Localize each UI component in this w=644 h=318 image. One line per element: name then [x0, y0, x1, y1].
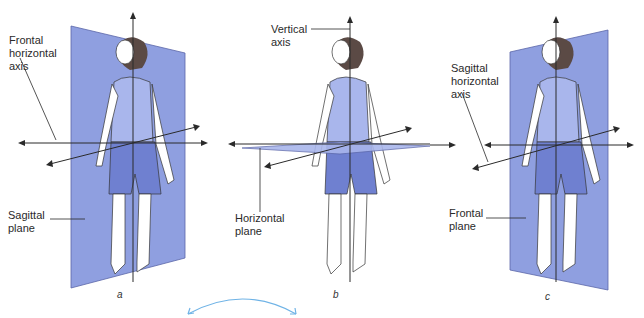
label-sagittal-horizontal-axis: Sagittal horizontal axis	[451, 62, 499, 101]
label-vertical-axis: Vertical axis	[271, 23, 307, 49]
annotation-arc	[188, 299, 296, 314]
figure-b	[312, 37, 390, 274]
caption-b: b	[333, 289, 339, 300]
caption-a: a	[117, 289, 123, 300]
label-horizontal-plane: Horizontal plane	[235, 212, 285, 238]
label-frontal-plane: Frontal plane	[449, 207, 483, 233]
anatomical-planes-diagram	[0, 0, 644, 318]
panel-b	[228, 16, 430, 282]
label-frontal-horizontal-axis: Frontal horizontal axis	[9, 34, 57, 73]
panel-c	[430, 16, 634, 290]
caption-c: c	[545, 291, 550, 302]
label-sagittal-plane: Sagittal plane	[8, 209, 45, 235]
